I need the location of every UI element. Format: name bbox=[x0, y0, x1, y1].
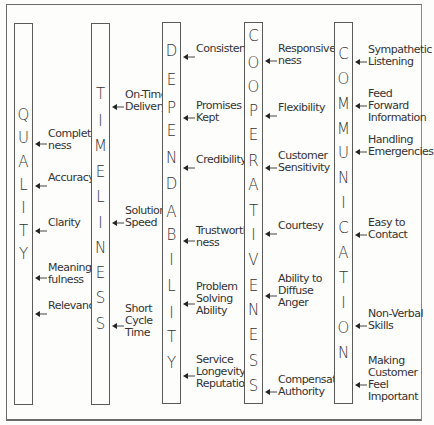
arrow-left-icon bbox=[112, 96, 124, 102]
attribute-label: Problem Solving Ability bbox=[196, 281, 237, 317]
arrow-left-icon bbox=[265, 105, 277, 111]
column-letter: N bbox=[92, 240, 109, 256]
column-letter: T bbox=[92, 86, 109, 102]
column-letter: T bbox=[335, 270, 352, 286]
attribute-label: Credibility bbox=[196, 154, 246, 166]
column-letter: I bbox=[92, 215, 109, 231]
column-communication: COMMUNICATION bbox=[334, 22, 353, 404]
attribute-label: On-Time Delivery bbox=[125, 89, 167, 113]
column-letter: B bbox=[163, 227, 180, 243]
column-letter: S bbox=[245, 378, 262, 394]
column-letter: U bbox=[15, 130, 32, 146]
column-letter: E bbox=[245, 327, 262, 343]
column-letter: C bbox=[335, 46, 352, 62]
column-letter: A bbox=[335, 245, 352, 261]
column-letter: I bbox=[163, 305, 180, 321]
attribute-label: Easy to Contact bbox=[368, 217, 407, 241]
column-letter: Y bbox=[163, 355, 180, 371]
arrow-left-icon bbox=[112, 212, 124, 218]
attribute-label: Solution Speed bbox=[125, 205, 166, 229]
arrow-left-icon bbox=[355, 374, 367, 380]
column-letter: A bbox=[245, 177, 262, 193]
column-letter: V bbox=[245, 252, 262, 268]
column-letter: I bbox=[15, 200, 32, 216]
arrow-left-icon bbox=[183, 157, 195, 163]
arrow-left-icon bbox=[35, 303, 47, 309]
column-timeliness: TIMELINESS bbox=[91, 23, 110, 405]
arrow-left-icon bbox=[35, 267, 47, 273]
column-letter: D bbox=[163, 176, 180, 192]
attribute-label: Accuracy bbox=[48, 172, 94, 184]
column-letter: T bbox=[163, 329, 180, 345]
arrow-left-icon bbox=[35, 133, 47, 139]
attribute-label: Courtesy bbox=[278, 220, 323, 232]
column-letter: E bbox=[163, 123, 180, 139]
column-letter: I bbox=[335, 295, 352, 311]
column-letter: E bbox=[245, 278, 262, 294]
attribute-label: Promises Kept bbox=[196, 100, 241, 124]
arrow-left-icon bbox=[183, 46, 195, 52]
column-letter: I bbox=[245, 227, 262, 243]
column-letter: L bbox=[163, 278, 180, 294]
column-letter: O bbox=[335, 320, 352, 336]
column-letter: Q bbox=[15, 107, 32, 123]
column-letter: P bbox=[163, 100, 180, 116]
column-cooperativeness: COOPERATIVENESS bbox=[244, 22, 263, 404]
column-letter: T bbox=[15, 223, 32, 239]
arrow-left-icon bbox=[183, 230, 195, 236]
column-letter: C bbox=[335, 220, 352, 236]
arrow-left-icon bbox=[265, 285, 277, 291]
column-letter: T bbox=[245, 203, 262, 219]
arrow-left-icon bbox=[35, 175, 47, 181]
column-letter: M bbox=[335, 121, 352, 137]
column-letter: O bbox=[245, 55, 262, 71]
column-dependability: DEPENDABILITY bbox=[162, 22, 181, 404]
column-letter: N bbox=[245, 302, 262, 318]
column-letter: L bbox=[15, 177, 32, 193]
attribute-label: Feed Forward Information bbox=[368, 88, 428, 124]
attribute-label: Meaning- fulness bbox=[48, 262, 95, 286]
arrow-left-icon bbox=[355, 315, 367, 321]
column-letter: S bbox=[245, 353, 262, 369]
column-letter: S bbox=[92, 290, 109, 306]
arrow-left-icon bbox=[355, 51, 367, 57]
column-quality: QUALITY bbox=[14, 23, 33, 405]
column-letter: N bbox=[335, 345, 352, 361]
attribute-label: Making Customer Feel Important bbox=[368, 355, 418, 403]
column-letter: U bbox=[335, 145, 352, 161]
column-letter: E bbox=[92, 265, 109, 281]
arrow-left-icon bbox=[183, 293, 195, 299]
column-letter: P bbox=[245, 103, 262, 119]
attribute-label: Ability to Diffuse Anger bbox=[278, 273, 322, 309]
column-letter: O bbox=[335, 71, 352, 87]
column-letter: M bbox=[92, 138, 109, 154]
arrow-left-icon bbox=[183, 107, 195, 113]
column-letter: O bbox=[245, 79, 262, 95]
arrow-left-icon bbox=[265, 223, 277, 229]
attribute-label: Sympathetic Listening bbox=[368, 44, 432, 68]
arrow-left-icon bbox=[355, 224, 367, 230]
attribute-label: Responsive- ness bbox=[278, 43, 339, 67]
column-letter: L bbox=[92, 189, 109, 205]
column-letter: A bbox=[163, 204, 180, 220]
attribute-label: Short Cycle Time bbox=[125, 303, 153, 339]
column-letter: M bbox=[335, 96, 352, 112]
column-letter: I bbox=[163, 252, 180, 268]
column-letter: N bbox=[163, 150, 180, 166]
column-letter: E bbox=[245, 127, 262, 143]
arrow-left-icon bbox=[355, 141, 367, 147]
attribute-label: Clarity bbox=[48, 217, 80, 229]
column-letter: I bbox=[92, 113, 109, 129]
attribute-label: Customer Sensitivity bbox=[278, 150, 330, 174]
column-letter: C bbox=[245, 28, 262, 44]
column-letter: R bbox=[245, 153, 262, 169]
attribute-label: Non-Verbal Skills bbox=[368, 308, 423, 332]
arrow-left-icon bbox=[355, 95, 367, 101]
column-letter: E bbox=[92, 164, 109, 180]
arrow-left-icon bbox=[183, 365, 195, 371]
arrow-left-icon bbox=[265, 381, 277, 387]
attribute-label: Service Longevity/ Reputation bbox=[196, 354, 251, 390]
column-letter: N bbox=[335, 170, 352, 186]
arrow-left-icon bbox=[265, 157, 277, 163]
column-letter: Y bbox=[15, 246, 32, 262]
